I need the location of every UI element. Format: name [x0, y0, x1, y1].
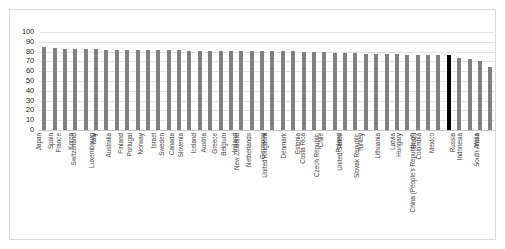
- y-axis-tick-label: 30: [26, 97, 34, 105]
- x-axis-tick-label: Belgium: [220, 133, 227, 156]
- x-axis-tick-label: Czech Republic: [313, 133, 320, 177]
- x-axis-tick-label: China (People's Republic of): [409, 133, 416, 212]
- bar[interactable]: [385, 54, 389, 130]
- bar-slot: [132, 32, 142, 130]
- bar[interactable]: [353, 53, 357, 130]
- bar[interactable]: [364, 54, 368, 130]
- x-axis-tick-label: Luxembourg: [89, 133, 96, 168]
- y-axis-tick-label: 40: [26, 87, 34, 95]
- bar[interactable]: [270, 51, 274, 130]
- bar[interactable]: [146, 50, 150, 130]
- x-axis-tick-label: United Kingdom: [260, 133, 267, 178]
- bar-slot: [91, 32, 101, 130]
- x-axis-tick-label: Slovak Republic: [354, 133, 361, 178]
- bar-slot: [371, 32, 381, 130]
- bar[interactable]: [343, 53, 347, 130]
- bar-slot: [402, 32, 412, 130]
- bar[interactable]: [63, 49, 67, 130]
- bar[interactable]: [260, 51, 264, 130]
- bar-slot: [205, 32, 215, 130]
- y-axis-tick-label: 60: [26, 67, 34, 75]
- bar-slot: [423, 32, 433, 130]
- bar[interactable]: [426, 55, 430, 130]
- x-axis-tick-label: Switzerland: [69, 133, 76, 165]
- bar[interactable]: [374, 54, 378, 130]
- bar[interactable]: [53, 48, 57, 130]
- y-axis-tick-label: 80: [26, 48, 34, 56]
- bar[interactable]: [125, 50, 129, 130]
- bar[interactable]: [219, 51, 223, 130]
- bar[interactable]: [84, 49, 88, 130]
- x-axis-tick-label: Costa Rica: [299, 133, 306, 164]
- bar[interactable]: [136, 50, 140, 130]
- x-axis-label-slot: Chile: [319, 131, 329, 241]
- bar[interactable]: [457, 58, 461, 130]
- y-axis-tick-label: 100: [22, 28, 34, 36]
- x-axis-label-slot: Germany: [267, 131, 277, 241]
- bar[interactable]: [208, 51, 212, 130]
- bar[interactable]: [177, 50, 181, 130]
- bar-slot: [247, 32, 257, 130]
- x-axis-label-slot: South Africa: [485, 131, 495, 241]
- bar-slot: [195, 32, 205, 130]
- x-axis-tick-label: South Africa: [473, 133, 480, 167]
- bar-slot: [475, 32, 485, 130]
- bar[interactable]: [198, 51, 202, 130]
- x-axis-tick-label: Israel: [151, 133, 158, 148]
- bar[interactable]: [229, 51, 233, 130]
- bar[interactable]: [239, 51, 243, 130]
- bar-slot: [340, 32, 350, 130]
- x-axis-label-slot: Mexico: [433, 131, 443, 241]
- bar[interactable]: [115, 50, 119, 130]
- x-axis-tick-label: Denmark: [280, 133, 287, 159]
- x-axis-tick-label: Netherlands: [245, 133, 252, 167]
- bar[interactable]: [73, 49, 77, 130]
- bar-slot: [267, 32, 277, 130]
- bar[interactable]: [436, 55, 440, 130]
- bar[interactable]: [187, 51, 191, 130]
- bar-slot: [350, 32, 360, 130]
- x-axis-tick-label: Lithuania: [374, 133, 381, 159]
- bar[interactable]: [42, 47, 46, 130]
- x-axis-tick-label: Slovenia: [177, 133, 184, 157]
- chart-container: 1009080706050403020100 JapanSpainFranceK…: [9, 9, 496, 240]
- bar-slot: [413, 32, 423, 130]
- bar[interactable]: [478, 61, 482, 130]
- bar-slot: [153, 32, 163, 130]
- bar-slot: [122, 32, 132, 130]
- x-axis-tick-label: Iceland: [190, 133, 197, 153]
- bar-slot: [444, 32, 454, 130]
- bar-slot: [288, 32, 298, 130]
- x-axis-tick-label: Japan: [36, 133, 43, 150]
- bar-slot: [215, 32, 225, 130]
- bar[interactable]: [488, 67, 492, 130]
- bar[interactable]: [312, 52, 316, 130]
- bar[interactable]: [333, 53, 337, 130]
- bar[interactable]: [416, 55, 420, 130]
- bar[interactable]: [302, 52, 306, 130]
- bar[interactable]: [447, 55, 451, 130]
- bar-slot: [361, 32, 371, 130]
- bar[interactable]: [468, 59, 472, 130]
- bar[interactable]: [395, 54, 399, 130]
- bar-slot: [298, 32, 308, 130]
- bar[interactable]: [405, 55, 409, 130]
- bar[interactable]: [281, 51, 285, 130]
- x-axis-tick-label: Hungary: [395, 133, 402, 157]
- x-axis-tick-label: France: [55, 133, 62, 153]
- bar[interactable]: [104, 50, 108, 130]
- bar[interactable]: [291, 51, 295, 130]
- bar-slot: [236, 32, 246, 130]
- bar[interactable]: [322, 52, 326, 130]
- bar[interactable]: [167, 50, 171, 130]
- bar-slot: [143, 32, 153, 130]
- bar[interactable]: [156, 50, 160, 130]
- x-axis-tick-label: Norway: [137, 133, 144, 154]
- bar[interactable]: [94, 49, 98, 130]
- y-axis-tick-label: 70: [26, 57, 34, 65]
- bar-slot: [81, 32, 91, 130]
- x-axis-tick-label: United States: [337, 133, 344, 171]
- x-axis-tick-label: Canada: [168, 133, 175, 155]
- x-axis-tick-label: Mexico: [428, 133, 435, 153]
- bar[interactable]: [250, 51, 254, 130]
